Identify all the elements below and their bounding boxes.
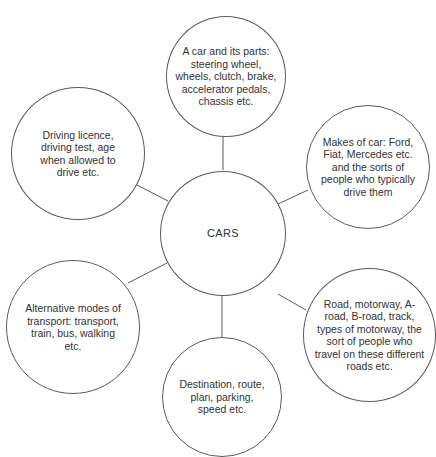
node-destination-label: Destination, route, plan, parking, speed…	[163, 378, 281, 416]
connector-makes	[278, 190, 308, 204]
node-makes: Makes of car: Ford, Fiat, Mercedes etc. …	[306, 105, 430, 229]
node-makes-label: Makes of car: Ford, Fiat, Mercedes etc. …	[307, 136, 429, 199]
node-alternative-label: Alternative modes of transport: transpor…	[7, 302, 139, 352]
connector-roads	[278, 294, 306, 310]
node-car-parts-label: A car and its parts: steering wheel, whe…	[167, 45, 285, 108]
node-licence-label: Driving licence, driving test, age when …	[12, 129, 144, 179]
connector-alternative	[128, 263, 167, 283]
center-label: CARS	[201, 227, 245, 240]
node-car-parts: A car and its parts: steering wheel, whe…	[166, 16, 286, 137]
node-alternative: Alternative modes of transport: transpor…	[6, 260, 140, 394]
node-roads: Road, motorway, A-road, B-road, track, t…	[303, 268, 436, 402]
node-licence: Driving licence, driving test, age when …	[11, 87, 145, 220]
node-destination: Destination, route, plan, parking, speed…	[162, 337, 282, 457]
node-roads-label: Road, motorway, A-road, B-road, track, t…	[304, 298, 435, 373]
connector-licence	[137, 185, 168, 201]
center-node-cars: CARS	[160, 171, 286, 296]
